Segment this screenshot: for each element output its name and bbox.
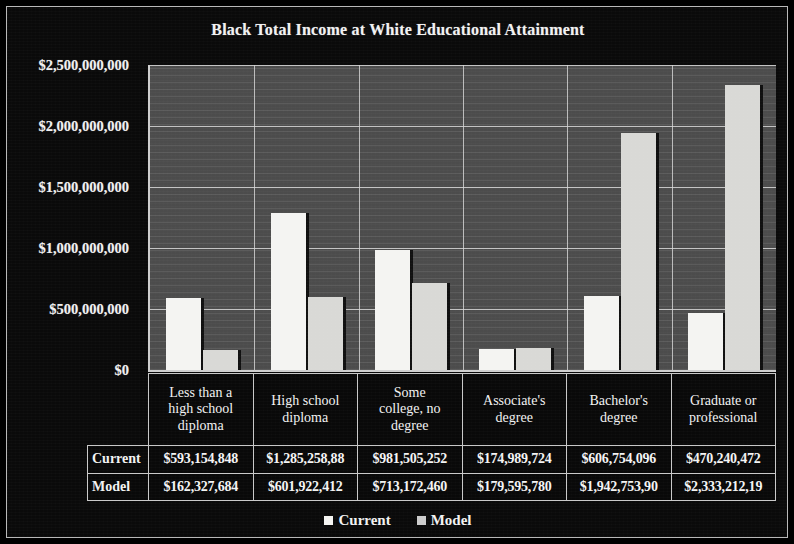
y-axis-tick-label: $2,000,000,000 (38, 118, 129, 135)
category-separator-gridline (463, 65, 464, 370)
category-label-0: Less than ahigh schooldiploma (149, 374, 254, 445)
bar-current-1 (271, 213, 306, 370)
bar-current-3 (479, 349, 514, 370)
category-label-4: Bachelor'sdegree (567, 374, 672, 445)
table-cell-r0-c0: $593,154,848 (149, 446, 254, 473)
table-cell-r0-c1: $1,285,258,88 (254, 446, 359, 473)
bar-model-1 (308, 297, 343, 370)
category-label-5: Graduate orprofessional (672, 374, 776, 445)
category-separator-gridline (567, 65, 568, 370)
table-row: Current$593,154,848$1,285,258,88$981,505… (88, 446, 775, 474)
table-cell-r0-c4: $606,754,096 (567, 446, 672, 473)
table-row-header: Model (88, 474, 149, 501)
y-axis-tick-label: $2,500,000,000 (38, 57, 129, 74)
category-label-2: Somecollege, nodegree (358, 374, 463, 445)
bar-current-0 (166, 298, 201, 370)
bar-current-4 (584, 296, 619, 370)
table-cell-r0-c2: $981,505,252 (358, 446, 463, 473)
bar-current-5 (688, 313, 723, 370)
table-row: Model$162,327,684$601,922,412$713,172,46… (88, 474, 775, 501)
legend-item-model[interactable]: Model (417, 512, 472, 529)
category-label-row: Less than ahigh schooldiplomaHigh school… (148, 373, 776, 445)
bar-model-5 (725, 85, 760, 370)
chart-figure: Black Total Income at White Educational … (6, 6, 788, 538)
legend-label: Model (431, 512, 472, 529)
table-cell-r1-c0: $162,327,684 (149, 474, 254, 501)
table-cell-r0-c5: $470,240,472 (672, 446, 776, 473)
y-axis-tick-label: $1,500,000,000 (38, 179, 129, 196)
legend-label: Current (338, 512, 390, 529)
chart-title: Black Total Income at White Educational … (7, 21, 789, 39)
bar-model-0 (203, 350, 238, 370)
y-axis-tick-label: $1,000,000,000 (38, 240, 129, 257)
chart-legend: CurrentModel (7, 512, 789, 529)
table-row-header: Current (88, 446, 149, 473)
horizontal-gridline (150, 370, 776, 371)
y-axis-tick-label: $0 (115, 362, 130, 379)
bar-current-2 (375, 250, 410, 370)
y-axis-tick-label: $500,000,000 (49, 301, 129, 318)
legend-swatch-icon (417, 516, 426, 525)
table-cell-r1-c2: $713,172,460 (358, 474, 463, 501)
legend-swatch-icon (324, 516, 333, 525)
category-separator-gridline (254, 65, 255, 370)
category-separator-gridline (672, 65, 673, 370)
bar-model-4 (621, 133, 656, 370)
table-cell-r1-c4: $1,942,753,90 (567, 474, 672, 501)
category-separator-gridline (359, 65, 360, 370)
table-cell-r1-c5: $2,333,212,19 (672, 474, 776, 501)
table-cell-r0-c3: $174,989,724 (463, 446, 568, 473)
table-cell-r1-c3: $179,595,780 (463, 474, 568, 501)
chart-data-table: Current$593,154,848$1,285,258,88$981,505… (87, 445, 776, 501)
bar-model-3 (516, 348, 551, 370)
plot-area (148, 65, 776, 372)
category-label-1: High schooldiploma (254, 374, 359, 445)
y-axis: $2,500,000,000$2,000,000,000$1,500,000,0… (7, 52, 135, 377)
legend-item-current[interactable]: Current (324, 512, 390, 529)
table-cell-r1-c1: $601,922,412 (254, 474, 359, 501)
category-label-3: Associate'sdegree (463, 374, 568, 445)
bar-model-2 (412, 283, 447, 370)
